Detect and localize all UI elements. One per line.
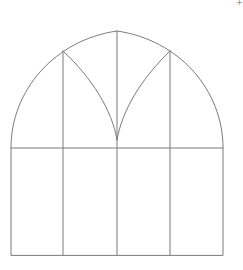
tracery-arc-right [117, 51, 170, 140]
tracery-arc-left [63, 51, 117, 140]
corner-plus-mark: + [236, 0, 243, 7]
gothic-window-drawing [0, 0, 243, 270]
